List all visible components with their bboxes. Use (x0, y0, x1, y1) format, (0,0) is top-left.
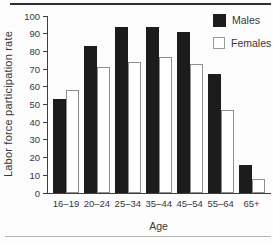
y-tick (43, 175, 47, 176)
bar-males-65+ (239, 165, 252, 193)
y-tick (43, 33, 47, 34)
bar-males-16-19 (53, 99, 66, 193)
bar-females-45-54 (190, 64, 203, 193)
y-tick-label-50: 50 (6, 99, 40, 110)
bar-males-25-34 (115, 27, 128, 193)
y-tick-label-90: 90 (6, 28, 40, 39)
y-tick (43, 122, 47, 123)
bar-females-25-34 (128, 62, 141, 193)
legend-label-females: Females (231, 37, 271, 49)
males-swatch-icon (213, 14, 226, 27)
y-tick-label-0: 0 (6, 188, 40, 199)
y-tick-label-70: 70 (6, 64, 40, 75)
legend-item-females: Females (213, 36, 271, 50)
bar-females-16-19 (66, 90, 79, 193)
x-axis-title: Age (47, 220, 270, 232)
y-tick (43, 69, 47, 70)
bar-females-20-24 (97, 67, 110, 193)
top-rule (10, 3, 271, 5)
y-tick (43, 16, 47, 17)
y-tick-label-40: 40 (6, 117, 40, 128)
y-tick-label-10: 10 (6, 170, 40, 181)
bar-females-55-64 (221, 110, 234, 193)
chart-panel: Labor force participation rate 010203040… (0, 0, 273, 243)
y-tick (43, 104, 47, 105)
y-tick (43, 157, 47, 158)
y-tick (43, 51, 47, 52)
bottom-rule (5, 236, 271, 237)
y-tick (43, 86, 47, 87)
legend: Males Females (213, 13, 271, 59)
y-tick-label-80: 80 (6, 46, 40, 57)
y-tick-label-100: 100 (6, 11, 40, 22)
y-tick-label-30: 30 (6, 134, 40, 145)
y-tick-label-60: 60 (6, 81, 40, 92)
bar-males-35-44 (146, 27, 159, 193)
y-tick (43, 193, 47, 194)
females-swatch-icon (213, 37, 225, 49)
bar-males-45-54 (177, 32, 190, 193)
bar-males-55-64 (208, 74, 221, 193)
bar-females-35-44 (159, 57, 172, 193)
x-tick-label-65+: 65+ (230, 198, 273, 209)
y-tick-label-20: 20 (6, 152, 40, 163)
bar-males-20-24 (84, 46, 97, 193)
bar-females-65+ (252, 179, 265, 193)
legend-item-males: Males (213, 13, 271, 27)
y-tick (43, 139, 47, 140)
legend-label-males: Males (232, 14, 260, 26)
